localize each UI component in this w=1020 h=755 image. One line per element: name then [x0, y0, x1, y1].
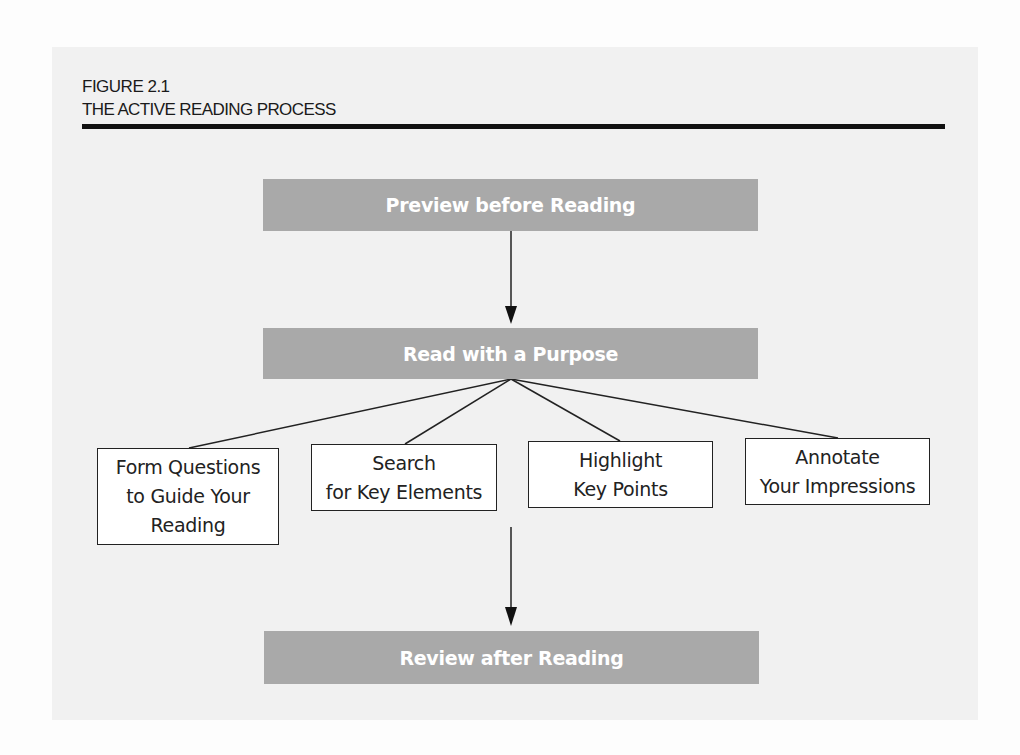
substep-text-line: Form Questions [116, 453, 261, 482]
step-preview-label: Preview before Reading [386, 194, 636, 216]
substep-text-line: for Key Elements [326, 478, 482, 507]
substep-search: Search for Key Elements [311, 444, 497, 511]
step-review: Review after Reading [264, 631, 759, 684]
substep-text-line: Annotate [760, 443, 916, 472]
arrowhead-icon [505, 306, 517, 324]
substep-text-line: Highlight [573, 446, 668, 475]
substep-text-line: Search [326, 449, 482, 478]
substep-text-line: Key Points [573, 475, 668, 504]
step-read-label: Read with a Purpose [403, 343, 618, 365]
substep-text-line: to Guide Your [116, 482, 261, 511]
branch-line-4 [511, 379, 838, 438]
step-preview: Preview before Reading [263, 179, 758, 231]
branch-line-1 [189, 379, 511, 448]
step-review-label: Review after Reading [399, 647, 623, 669]
substep-text-line: Reading [116, 511, 261, 540]
step-read: Read with a Purpose [263, 328, 758, 379]
substep-highlight: Highlight Key Points [528, 441, 713, 508]
arrowhead-icon [505, 607, 517, 626]
substep-annotate: Annotate Your Impressions [745, 438, 930, 505]
substep-form-questions: Form Questions to Guide Your Reading [97, 448, 279, 545]
branch-line-2 [405, 379, 511, 444]
substep-text-line: Your Impressions [760, 472, 916, 501]
